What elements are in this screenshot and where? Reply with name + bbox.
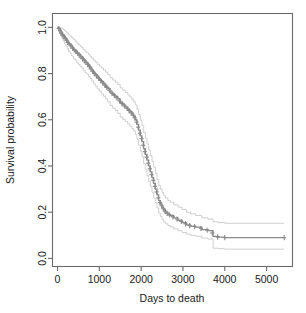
x-axis-title: Days to death [140, 292, 205, 304]
y-tick-label: 0.6 [36, 112, 48, 127]
y-axis-tick-labels: 0.00.20.40.60.81.0 [36, 20, 48, 266]
x-tick-label: 4000 [213, 273, 237, 285]
kaplan-meier-figure: 010002000300040005000 0.00.20.40.60.81.0… [0, 0, 306, 313]
x-tick-label: 2000 [129, 273, 153, 285]
censor-marks [57, 26, 287, 240]
x-tick-label: 0 [55, 273, 61, 285]
x-axis-ticks [58, 267, 267, 272]
y-tick-label: 0.2 [36, 205, 48, 220]
survival-plot-svg: 010002000300040005000 0.00.20.40.60.81.0… [0, 0, 306, 313]
plot-frame [53, 14, 293, 267]
confidence-band-upper [58, 27, 285, 223]
y-tick-label: 0.0 [36, 251, 48, 266]
x-tick-label: 3000 [171, 273, 195, 285]
km-survival-curve [58, 27, 285, 237]
y-tick-label: 1.0 [36, 20, 48, 35]
y-axis-title: Survival probability [4, 95, 16, 184]
y-tick-label: 0.4 [36, 159, 48, 174]
x-tick-label: 5000 [255, 273, 279, 285]
x-tick-label: 1000 [88, 273, 112, 285]
y-tick-label: 0.8 [36, 66, 48, 81]
y-axis-ticks [48, 27, 53, 258]
x-axis-tick-labels: 010002000300040005000 [55, 273, 279, 285]
